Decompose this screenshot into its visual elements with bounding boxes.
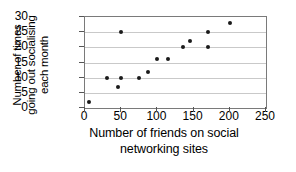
y-tick-label: 25	[2, 25, 28, 37]
data-point	[119, 76, 123, 80]
data-point	[105, 76, 109, 80]
data-point	[206, 45, 210, 49]
gridline	[85, 32, 266, 33]
gridline	[85, 63, 266, 64]
x-tick-mark	[193, 107, 194, 112]
data-point	[155, 57, 159, 61]
data-point	[228, 21, 232, 25]
data-point	[146, 70, 150, 74]
data-point	[119, 30, 123, 34]
x-tick-mark	[229, 107, 230, 112]
data-point	[137, 76, 141, 80]
gridline	[85, 93, 266, 94]
y-tick-label: 5	[2, 86, 28, 98]
data-point	[87, 100, 91, 104]
y-tick-label: 10	[2, 71, 28, 83]
x-tick-mark	[120, 107, 121, 112]
data-point	[188, 39, 192, 43]
y-tick-label: 30	[2, 10, 28, 22]
gridline	[85, 78, 266, 79]
x-axis-title-line-2: networking sites	[58, 142, 270, 158]
data-point	[181, 45, 185, 49]
data-point	[206, 30, 210, 34]
data-point	[166, 57, 170, 61]
y-axis-title-line-3: each month	[38, 15, 52, 114]
x-axis-title-line-1: Number of friends on social	[58, 126, 270, 142]
data-point	[116, 85, 120, 89]
y-tick-label: 0	[2, 101, 28, 113]
x-axis-title: Number of friends on social networking s…	[58, 126, 270, 157]
y-tick-label: 20	[2, 40, 28, 52]
x-tick-mark	[265, 107, 266, 112]
gridline	[85, 47, 266, 48]
y-tick-label: 15	[2, 56, 28, 68]
scatter-chart-figure: Number of times going out socialising ea…	[0, 0, 296, 172]
plot-area	[84, 16, 267, 109]
x-tick-mark	[156, 107, 157, 112]
x-tick-mark	[84, 107, 85, 112]
